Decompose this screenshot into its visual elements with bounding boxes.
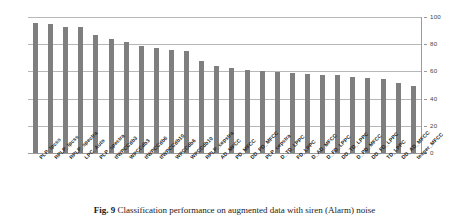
category-label: DD_TD_LPPC	[340, 156, 344, 160]
value-axis-labels: 020406080100	[424, 0, 469, 218]
bar-slot	[149, 17, 164, 153]
value-tick-label: 60	[430, 68, 437, 74]
value-tick-label: 40	[430, 96, 437, 102]
bar	[48, 24, 53, 153]
category-label: WPCCdb10	[189, 156, 193, 160]
category-label: WPCCdb3	[128, 156, 132, 160]
category-label: FD_LPPC	[295, 156, 299, 160]
bar-slot	[58, 17, 73, 153]
value-tick-label: 20	[430, 123, 437, 129]
category-label: DD_AD_MFCC	[400, 156, 404, 160]
category-axis-labels: PLP_lpcssRPLP_lpcssRPLP_spectraLPC_AutoP…	[28, 154, 421, 200]
bar-slot	[406, 17, 421, 153]
category-label: teager_MFCC	[415, 156, 419, 160]
category-label: D_AD_MFCC	[310, 156, 314, 160]
value-tick-mark	[424, 17, 427, 18]
category-label: DD_PD_MFCC	[249, 156, 253, 160]
bar	[169, 50, 174, 153]
value-tick-label: 80	[430, 41, 437, 47]
bar-slot	[164, 17, 179, 153]
category-label: WPCCdb6	[174, 156, 178, 160]
bar-slot	[255, 17, 270, 153]
category-label: tfWPCCdb10	[158, 156, 162, 160]
bar-slot	[240, 17, 255, 153]
figure-caption-number: Fig. 9	[94, 205, 116, 215]
bar-slot	[194, 17, 209, 153]
category-label: PD_MFCC	[234, 156, 238, 160]
bar-slot	[73, 17, 88, 153]
bar	[154, 48, 159, 153]
category-label: tfWPCCdb6	[143, 156, 147, 160]
bar	[199, 61, 204, 153]
value-tick-mark	[424, 126, 427, 127]
bar	[109, 39, 114, 153]
bar	[139, 46, 144, 153]
value-tick-label: 0	[430, 150, 434, 156]
bar	[184, 51, 189, 153]
category-label: D_FD_LPPC	[325, 156, 329, 160]
value-tick-mark	[424, 71, 427, 72]
figure-container: 020406080100 PLP_lpcssRPLP_lpcssRPLP_spe…	[0, 0, 469, 218]
category-label: DD_FD_LPPC	[370, 156, 374, 160]
category-label: PLP_spectra	[98, 156, 102, 160]
category-label: AD_MFCC	[219, 156, 223, 160]
category-label: RPLP_lpcss	[53, 156, 57, 160]
bar	[63, 27, 68, 153]
value-tick-mark	[424, 44, 427, 45]
bar	[33, 23, 38, 153]
category-label: D_PD_MFCC	[355, 156, 359, 160]
category-label: PLP_cepstra	[264, 156, 268, 160]
bar	[78, 27, 83, 153]
category-label: LPC_Auto	[83, 156, 87, 160]
value-tick-label: 100	[430, 14, 441, 20]
bar-slot	[315, 17, 330, 153]
category-label: tfWPCCdb3	[113, 156, 117, 160]
value-tick-mark	[424, 99, 427, 100]
bar-slot	[209, 17, 224, 153]
figure-caption: Fig. 9 Classification performance on aug…	[0, 205, 469, 215]
category-label: RPLP_cepstra	[204, 156, 208, 160]
category-label: D_TD_LPPC	[279, 156, 283, 160]
bar-slot	[300, 17, 315, 153]
bar-slot	[104, 17, 119, 153]
category-label: PLP_lpcss	[38, 156, 42, 160]
category-label: RPLP_spectra	[68, 156, 72, 160]
bar-slot	[134, 17, 149, 153]
bar-slot	[28, 17, 43, 153]
category-label: TD_LPPC	[385, 156, 389, 160]
figure-caption-text: Classification performance on augmented …	[117, 205, 375, 215]
bar-slot	[43, 17, 58, 153]
